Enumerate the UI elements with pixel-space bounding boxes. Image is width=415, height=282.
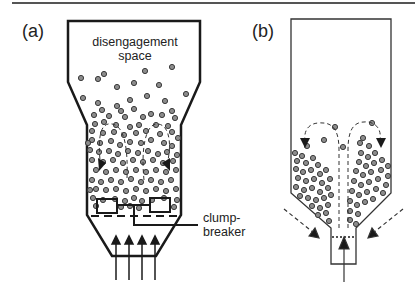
panel-b-label: (b) [252,21,274,42]
label-line-1: disengagement [90,35,180,49]
arrow-down-icon [376,138,386,148]
panel-a-label: (a) [22,21,44,42]
disengagement-space-label: disengagement space [90,35,180,63]
panel-b-inlet-arrows [284,209,403,282]
panel-b-spout-paths [305,122,381,228]
panel-a-gas-inlet-arrows [112,236,159,280]
diagram-canvas [0,0,415,282]
clump-breaker [97,198,198,225]
label-line-2: space [90,49,180,63]
label-line-2: breaker [203,225,245,239]
clump-breaker-label: clump- breaker [203,211,245,239]
label-line-1: clump- [203,211,245,225]
panel-b-particles [292,120,390,226]
panel-a-particles [78,64,188,210]
